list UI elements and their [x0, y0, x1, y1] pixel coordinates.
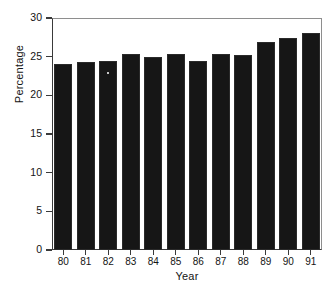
bar-chart: Percentage 051015202530 8081828384858687… — [0, 0, 328, 294]
bar-90 — [279, 38, 297, 250]
y-tick-mark — [46, 56, 52, 57]
x-tick-mark — [153, 250, 154, 255]
bar-89 — [257, 42, 275, 250]
y-tick-mark — [46, 95, 52, 96]
bar-81 — [77, 62, 95, 250]
y-tick-label: 5 — [0, 204, 42, 216]
y-tick-label: 15 — [0, 127, 42, 139]
y-tick-label: 25 — [0, 50, 42, 62]
bar-91 — [302, 33, 320, 250]
x-tick-mark — [198, 250, 199, 255]
y-tick-label: 0 — [0, 243, 42, 255]
y-tick-label: 30 — [0, 11, 42, 23]
x-tick-mark — [243, 250, 244, 255]
x-tick-mark — [108, 250, 109, 255]
x-tick-mark — [63, 250, 64, 255]
bar-84 — [144, 57, 162, 250]
y-axis-title: Percentage — [13, 19, 25, 129]
x-tick-mark — [85, 250, 86, 255]
y-tick-label: 10 — [0, 166, 42, 178]
x-tick-mark — [130, 250, 131, 255]
bar-86 — [189, 61, 207, 250]
y-tick-mark — [46, 133, 52, 134]
scan-artifact — [107, 72, 109, 74]
y-tick-mark — [46, 249, 52, 250]
x-tick-label: 91 — [297, 256, 325, 267]
x-tick-mark — [265, 250, 266, 255]
bar-83 — [122, 54, 140, 250]
y-tick-label: 20 — [0, 88, 42, 100]
bar-87 — [212, 54, 230, 250]
bar-88 — [234, 55, 252, 250]
x-axis-title: Year — [52, 270, 322, 282]
y-tick-mark — [46, 172, 52, 173]
y-tick-mark — [46, 17, 52, 18]
y-tick-mark — [46, 211, 52, 212]
bar-80 — [54, 64, 72, 250]
x-tick-mark — [310, 250, 311, 255]
x-tick-mark — [220, 250, 221, 255]
bar-85 — [167, 54, 185, 250]
x-tick-mark — [175, 250, 176, 255]
x-tick-mark — [288, 250, 289, 255]
bar-82 — [99, 61, 117, 250]
